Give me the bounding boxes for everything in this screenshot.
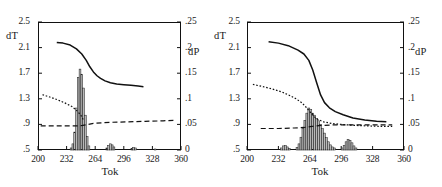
y-tick-right: .25 xyxy=(408,16,420,26)
histogram-bar xyxy=(312,113,314,150)
histogram-bar xyxy=(322,128,324,150)
histogram-bar xyxy=(76,108,78,150)
histogram-bar xyxy=(329,145,331,150)
histogram-bar xyxy=(106,148,108,150)
histogram-bar xyxy=(131,148,133,150)
histogram-bar xyxy=(286,147,288,150)
y-tick-left: 1.3 xyxy=(212,93,240,103)
histogram-bar xyxy=(72,144,74,150)
y-tick-right: .25 xyxy=(185,16,197,26)
y-tick-right: .05 xyxy=(408,118,420,128)
histogram-bar xyxy=(81,74,83,150)
chart-panel-b: dT dP (B) Tok .5.91.31.72.12.50.05.1.15.… xyxy=(210,0,442,187)
histogram-bar xyxy=(324,133,326,150)
series-line xyxy=(41,120,174,126)
histogram-bar xyxy=(308,108,310,150)
histogram-bar xyxy=(70,148,72,150)
histogram-bar xyxy=(333,148,335,150)
y-tick-right: .15 xyxy=(185,67,197,77)
histogram-bar xyxy=(326,138,328,150)
series-line xyxy=(269,42,387,122)
histogram-bar xyxy=(353,146,355,150)
y-tick-left: .9 xyxy=(2,118,30,128)
histogram-bar xyxy=(108,145,110,150)
series-line xyxy=(57,42,144,86)
histogram-bar xyxy=(133,147,135,150)
histogram-bar xyxy=(154,149,156,150)
histogram-bar xyxy=(280,148,282,150)
histogram-bar xyxy=(304,120,306,150)
histogram-bar xyxy=(327,142,329,150)
y-tick-right: 0 xyxy=(185,144,190,154)
x-tick: 232 xyxy=(261,154,295,164)
y-tick-right: .1 xyxy=(185,93,192,103)
series-line xyxy=(261,125,392,129)
histogram-bar xyxy=(88,146,90,150)
y-tick-left: .9 xyxy=(212,118,240,128)
y-tick-right: 0 xyxy=(408,144,413,154)
histogram-bar xyxy=(310,110,312,150)
histogram-bar xyxy=(351,143,353,150)
y-tick-right: .15 xyxy=(408,67,420,77)
histogram-bar xyxy=(316,118,318,150)
y-tick-left: 2.5 xyxy=(2,16,30,26)
histogram-bar xyxy=(86,137,88,150)
histogram-bar xyxy=(320,124,322,150)
histogram-bar xyxy=(135,148,137,150)
x-tick: 328 xyxy=(356,154,390,164)
histogram-bar xyxy=(298,144,300,150)
histogram-bar xyxy=(355,148,357,150)
histogram-bar xyxy=(345,142,347,150)
x-tick: 296 xyxy=(324,154,358,164)
y-tick-left: 2.5 xyxy=(212,16,240,26)
y-tick-left: 2.1 xyxy=(2,42,30,52)
y-tick-left: 1.7 xyxy=(2,67,30,77)
histogram-bar xyxy=(288,148,290,150)
histogram-bar xyxy=(300,137,302,150)
x-tick: 360 xyxy=(164,154,198,164)
histogram-bar xyxy=(84,115,86,150)
histogram-bar xyxy=(302,128,304,150)
histogram-bar xyxy=(347,139,349,150)
x-tick: 200 xyxy=(230,154,264,164)
y-tick-right: .1 xyxy=(408,93,415,103)
histogram-bar xyxy=(74,132,76,150)
histogram-bar xyxy=(314,115,316,150)
histogram-bar xyxy=(282,146,284,150)
y-tick-left: .5 xyxy=(2,144,30,154)
histogram-bar xyxy=(111,145,113,150)
histogram-bar xyxy=(79,69,81,150)
y-tick-left: 1.3 xyxy=(2,93,30,103)
x-tick: 264 xyxy=(293,154,327,164)
histogram-bar xyxy=(306,113,308,150)
histogram-bar xyxy=(296,147,298,150)
y-tick-left: .5 xyxy=(212,144,240,154)
histogram-bar xyxy=(343,145,345,150)
histogram-bar xyxy=(349,140,351,150)
histogram-bar xyxy=(113,147,115,150)
y-tick-right: .2 xyxy=(185,42,192,52)
y-tick-left: 2.1 xyxy=(212,42,240,52)
y-tick-left: 1.7 xyxy=(212,67,240,77)
figure-container: dT dP (A) Tok .5.91.31.72.12.50.05.1.15.… xyxy=(0,0,442,187)
histogram-bar xyxy=(331,147,333,150)
histogram-bar xyxy=(110,144,112,150)
y-tick-right: .2 xyxy=(408,42,415,52)
chart-panel-a: dT dP (A) Tok .5.91.31.72.12.50.05.1.15.… xyxy=(0,0,210,187)
y-tick-right: .05 xyxy=(185,118,197,128)
x-tick: 360 xyxy=(387,154,421,164)
histogram-bar xyxy=(284,145,286,150)
histogram-bar xyxy=(341,148,343,150)
